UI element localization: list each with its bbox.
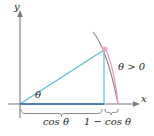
y-axis-label: y (14, 2, 20, 12)
outer-curve (93, 32, 118, 104)
point-on-circle (102, 46, 107, 51)
x-axis-label: x (141, 94, 147, 104)
y-axis (17, 10, 23, 118)
trig-diagram: y x θ θ > 0 cos θ 1 − cos θ (0, 0, 154, 136)
angle-theta-label: θ (35, 90, 41, 100)
one-minus-cos-theta-label: 1 − cos θ (84, 117, 131, 127)
hypotenuse (20, 50, 104, 104)
theta-positive-label: θ > 0 (118, 62, 145, 72)
cos-theta-label: cos θ (43, 117, 69, 127)
brace-one-minus-cos-theta (105, 109, 118, 115)
